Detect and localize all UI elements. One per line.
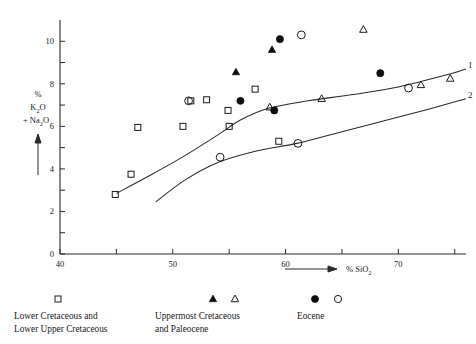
y-axis-title-line1: % — [34, 89, 41, 99]
data-point-open-square — [252, 86, 258, 92]
lower-boundary-curve — [156, 99, 466, 202]
data-point-filled-triangle — [232, 68, 239, 75]
legend-marker-open-triangle — [231, 295, 238, 302]
y-tick-label: 8 — [50, 79, 54, 89]
legend-label-line1: Eocene — [297, 311, 324, 321]
data-point-filled-triangle — [268, 46, 275, 53]
x-axis-title: % SiO2 — [285, 264, 372, 276]
tick-labels-group: 405060700246810 — [46, 36, 403, 269]
curve-label-1: 1 — [468, 60, 473, 70]
x-tick-label: 70 — [394, 259, 403, 269]
data-point-open-circle — [405, 84, 413, 92]
legend-label-line2: Lower Upper Cretaceous — [14, 324, 108, 334]
data-point-open-square — [128, 171, 134, 177]
y-tick-label: 10 — [46, 36, 55, 46]
x-tick-label: 60 — [281, 259, 290, 269]
data-point-open-triangle — [446, 75, 453, 82]
data-point-open-square — [135, 124, 141, 130]
legend-marker-open-circle — [334, 295, 341, 302]
legend-item-uppermost-cretaceous-paleocene: Uppermost Cretaceous and Paleocene — [155, 295, 240, 334]
y-axis-title: % K2O + Na2O — [23, 89, 49, 175]
legend-label-line1: Lower Cretaceous and — [14, 311, 98, 321]
data-point-filled-circle — [237, 97, 244, 104]
legend-marker-open-square — [55, 296, 61, 302]
y-axis-title-line3: + Na2O — [23, 115, 49, 127]
curve-labels-group: 12 — [468, 60, 473, 100]
legend-label-line2: and Paleocene — [155, 324, 208, 334]
y-axis-title-line2: K2O — [30, 102, 45, 114]
data-point-open-square — [276, 138, 282, 144]
x-axis-title-text: % SiO2 — [346, 264, 372, 276]
curves-group — [116, 69, 466, 202]
upper-boundary-curve — [116, 69, 466, 193]
y-tick-label: 4 — [50, 164, 55, 174]
legend-marker-filled-triangle — [209, 295, 216, 302]
chart-svg: 405060700246810 % K2O + Na2O % SiO2 — [0, 0, 476, 344]
legend-label-line1: Uppermost Cretaceous — [155, 311, 240, 321]
y-tick-label: 0 — [50, 249, 54, 259]
data-markers-group — [112, 26, 454, 198]
data-point-filled-circle — [377, 70, 384, 77]
legend-item-lower-cretaceous: Lower Cretaceous and Lower Upper Cretace… — [14, 296, 108, 334]
x-axis-arrow-head — [328, 266, 337, 272]
data-point-open-square — [204, 97, 210, 103]
legend-marker-open-square — [55, 296, 61, 302]
data-point-open-triangle — [360, 26, 367, 33]
curve-label-2: 2 — [468, 90, 473, 100]
data-point-filled-circle — [276, 36, 283, 43]
legend-marker-filled-circle — [311, 295, 318, 302]
data-point-open-circle — [216, 153, 224, 161]
y-tick-label: 2 — [50, 206, 54, 216]
x-tick-label: 50 — [169, 259, 178, 269]
data-point-open-square — [225, 107, 231, 113]
axes-group — [60, 20, 466, 254]
data-point-filled-circle — [271, 107, 278, 114]
x-tick-label: 40 — [56, 259, 65, 269]
chart-container: 405060700246810 % K2O + Na2O % SiO2 — [0, 0, 476, 344]
legend-markers-circles — [311, 295, 341, 302]
legend: Lower Cretaceous and Lower Upper Cretace… — [14, 295, 342, 334]
ticks-group — [60, 41, 455, 254]
y-tick-label: 6 — [50, 121, 54, 131]
legend-item-eocene: Eocene — [297, 295, 342, 321]
legend-markers-triangles — [209, 295, 238, 302]
data-point-open-square — [180, 123, 186, 129]
y-axis-arrow — [35, 134, 41, 175]
data-point-open-circle — [297, 31, 305, 39]
